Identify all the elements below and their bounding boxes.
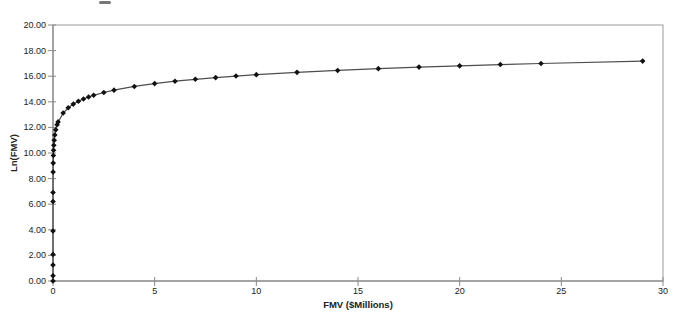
data-point-marker	[132, 84, 138, 90]
y-tick-label: 8.00	[28, 174, 46, 184]
y-tick-label: 16.00	[23, 71, 46, 81]
data-point-marker	[152, 81, 158, 87]
data-point-marker	[233, 73, 239, 79]
data-point-marker	[50, 278, 56, 284]
cropped-text-artifact	[99, 1, 111, 4]
y-tick-label: 0.00	[28, 276, 46, 286]
data-point-marker	[111, 87, 117, 93]
data-point-marker	[50, 169, 56, 175]
chart: 0.002.004.006.008.0010.0012.0014.0016.00…	[0, 0, 680, 327]
y-tick-label: 10.00	[23, 148, 46, 158]
data-point-marker	[254, 72, 260, 78]
x-tick-label: 10	[251, 286, 261, 296]
data-point-marker	[213, 75, 219, 81]
x-axis-title: FMV ($Millions)	[323, 299, 393, 310]
data-point-marker	[101, 90, 107, 96]
data-point-marker	[76, 98, 82, 104]
plot-frame	[53, 25, 663, 281]
data-point-marker	[86, 94, 92, 100]
y-tick-label: 6.00	[28, 199, 46, 209]
data-point-marker	[457, 63, 463, 69]
x-tick-label: 25	[556, 286, 566, 296]
data-point-marker	[294, 70, 300, 76]
data-point-marker	[50, 262, 56, 268]
x-tick-label: 0	[50, 286, 55, 296]
y-tick-label: 12.00	[23, 122, 46, 132]
chart-canvas: 0.002.004.006.008.0010.0012.0014.0016.00…	[0, 0, 680, 327]
data-point-marker	[498, 62, 504, 68]
data-point-marker	[50, 273, 56, 279]
data-point-marker	[50, 199, 56, 205]
y-tick-label: 4.00	[28, 225, 46, 235]
data-point-marker	[91, 92, 97, 98]
y-tick-label: 2.00	[28, 250, 46, 260]
data-point-marker	[50, 190, 56, 196]
data-point-marker	[335, 68, 341, 74]
data-point-marker	[416, 64, 422, 70]
data-point-marker	[538, 61, 544, 67]
y-tick-label: 18.00	[23, 46, 46, 56]
data-point-marker	[172, 78, 178, 84]
data-point-marker	[50, 160, 56, 166]
data-point-marker	[376, 66, 382, 72]
x-tick-label: 5	[152, 286, 157, 296]
x-tick-label: 15	[353, 286, 363, 296]
y-tick-label: 20.00	[23, 20, 46, 30]
data-point-marker	[50, 252, 56, 258]
data-point-marker	[51, 143, 57, 149]
y-axis-title: Ln(FMV)	[8, 134, 19, 172]
data-point-marker	[51, 137, 57, 143]
data-point-marker	[640, 58, 646, 64]
data-point-marker	[51, 148, 57, 154]
series-line	[53, 61, 643, 281]
data-point-marker	[51, 153, 57, 159]
data-point-marker	[50, 228, 56, 234]
x-tick-label: 30	[658, 286, 668, 296]
data-point-marker	[81, 96, 87, 102]
x-tick-label: 20	[455, 286, 465, 296]
y-tick-label: 14.00	[23, 97, 46, 107]
data-point-marker	[193, 76, 199, 82]
